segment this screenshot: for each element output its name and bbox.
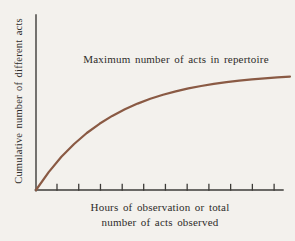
cumulative-acts-curve xyxy=(36,77,290,190)
repertoire-curve-figure: Maximum number of acts in repertoire Cum… xyxy=(0,0,295,241)
annotation-max-acts-in-repertoire: Maximum number of acts in repertoire xyxy=(57,53,295,65)
y-axis-label-text: Cumulative number of different acts xyxy=(13,18,25,184)
x-axis-label-line1: Hours of observation or total xyxy=(40,201,280,213)
x-axis-label-line2: number of acts observed xyxy=(40,216,280,228)
